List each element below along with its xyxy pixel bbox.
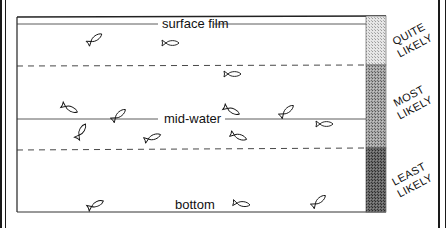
fish-icon xyxy=(223,104,241,117)
fish-icon xyxy=(110,107,127,123)
least-likely-label: LEAST LIKELY xyxy=(389,159,435,199)
fish-icon xyxy=(86,32,103,47)
zone-divider-upper xyxy=(17,65,366,66)
bottom-label: bottom xyxy=(175,197,215,212)
likelihood-segment-most xyxy=(366,65,386,148)
likelihood-segment-quite xyxy=(366,16,386,65)
fish-icon xyxy=(61,102,79,115)
fish-icon xyxy=(233,200,251,208)
fish-icon xyxy=(224,71,241,77)
fish-icon xyxy=(278,103,295,119)
water-zones-diagram: surface film mid-water bottom QUITE LIKE… xyxy=(0,0,446,228)
mid-water-label: mid-water xyxy=(164,111,222,126)
surface-film-label: surface film xyxy=(162,16,228,31)
quite-likely-label: QUITE LIKELY xyxy=(389,19,435,59)
fish-icon xyxy=(316,121,333,127)
fish-icon xyxy=(310,193,327,209)
zone-divider-lower xyxy=(17,148,366,150)
likelihood-bar xyxy=(366,16,386,212)
fish-icon xyxy=(230,131,248,142)
most-likely-label: MOST LIKELY xyxy=(389,81,435,121)
fish-icon xyxy=(144,132,162,143)
fish-icon xyxy=(162,40,179,46)
fish-icon xyxy=(87,198,105,211)
fish-icon xyxy=(74,122,88,140)
likelihood-segment-least xyxy=(366,148,386,212)
